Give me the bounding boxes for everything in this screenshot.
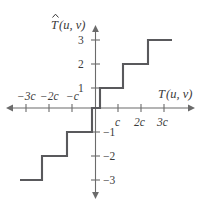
y-tick-label-1: 1 [78,82,84,94]
x-axis-label-base: T [158,87,166,101]
x-tick-label-minusc: −c [66,90,79,102]
y-axis-label-args: (u, v) [59,18,85,32]
y-tick-labels-group: 3 2 1 −1 −2 −3 [78,34,115,186]
x-axis-label-args: (u, v) [166,87,192,101]
y-tick-label-minus2: −2 [103,150,115,162]
quantizer-figure: T (u, v) T (u, v) −3c −2c −c c 2c 3c 3 2… [0,0,203,205]
x-axis-right-arrow-icon [188,105,195,112]
x-tick-label-c: c [115,116,120,128]
y-axis-down-arrow-icon [92,192,99,199]
y-tick-label-3: 3 [78,34,84,46]
x-axis-label-group: T (u, v) [158,87,192,101]
plot-canvas: T (u, v) T (u, v) −3c −2c −c c 2c 3c 3 2… [0,0,203,205]
y-axis-up-arrow-icon [92,25,99,32]
y-tick-label-2: 2 [78,58,84,70]
x-tick-label-minus2c: −2c [40,90,59,102]
circumflex-accent-icon [53,14,59,17]
y-axis-label-base: T [51,18,59,32]
x-tick-label-3c: 3c [156,116,168,128]
y-tick-label-minus1: −1 [103,126,115,138]
x-tick-label-2c: 2c [134,116,145,128]
x-axis-left-arrow-icon [6,105,13,112]
y-axis-label-group: T (u, v) [51,14,85,32]
y-tick-label-minus3: −3 [103,174,115,186]
x-tick-label-minus3c: −3c [17,90,36,102]
